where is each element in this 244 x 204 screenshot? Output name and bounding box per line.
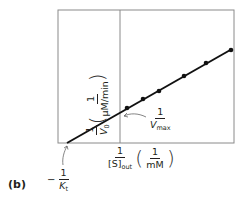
x-intercept-label: − 1Kt [47, 168, 69, 192]
y-axis-label: 1V0 ( 1µM/min ) [85, 15, 109, 135]
y-intercept-label: 1Vmax [150, 107, 171, 131]
plot-canvas [0, 0, 244, 204]
x-axis-label: 1[S]out ( 1mM ) [108, 146, 175, 170]
panel-label: (b) [8, 178, 26, 191]
x-intercept-arrow [63, 146, 67, 165]
